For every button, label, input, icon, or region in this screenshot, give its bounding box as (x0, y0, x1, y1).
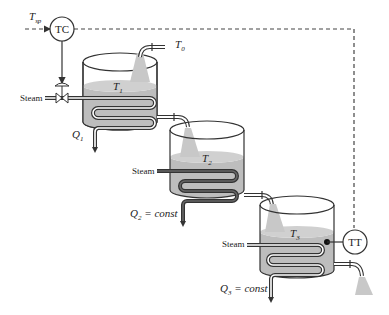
tank-3-q: Q3 = const (220, 282, 269, 297)
tank-2-q: Q2 = const (130, 207, 179, 222)
temperature-transmitter: TT (343, 230, 367, 254)
tank-1-q: Q1 (72, 128, 83, 143)
setpoint-label: Tsp (29, 10, 42, 25)
transmitter-label: TT (348, 236, 362, 248)
controller-label: TC (55, 23, 69, 35)
tank-3-steam-label: Steam (222, 239, 245, 249)
tank-1-steam-label: Steam (20, 93, 43, 103)
tank-2-steam-label: Steam (132, 166, 155, 176)
temperature-controller: TC (50, 17, 74, 41)
process-diagram: TC Tsp T1 T0 Steam Q1 (0, 0, 389, 315)
inlet-temp: T0 (175, 38, 185, 53)
